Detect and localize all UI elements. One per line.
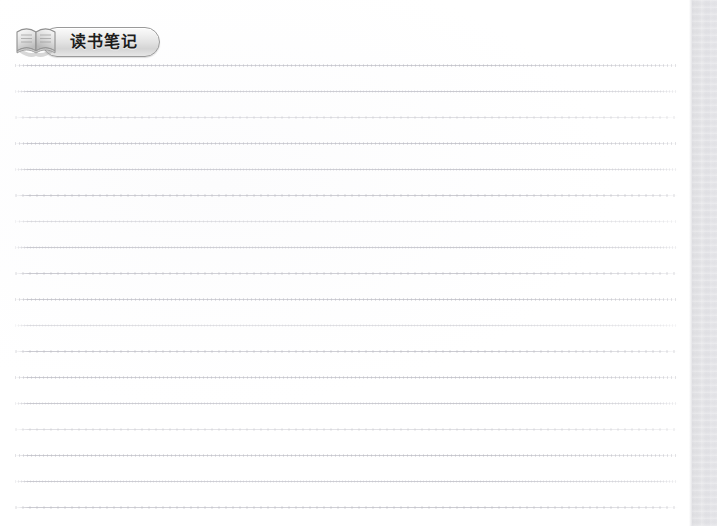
ruled-line: [15, 116, 678, 119]
ruled-line-grain: [15, 90, 678, 93]
ruled-line: [15, 64, 678, 67]
ruled-line: [15, 246, 678, 249]
ruled-line: [15, 142, 678, 145]
notebook-page: 读书笔记: [0, 0, 717, 526]
ruled-line-stroke: [15, 65, 678, 66]
ruled-line: [15, 480, 678, 483]
ruled-line-stroke: [15, 221, 678, 222]
ruled-line: [15, 220, 678, 223]
page-gutter-shadow: [692, 0, 717, 526]
ruled-line-grain: [15, 142, 678, 145]
ruled-line-stroke: [15, 377, 678, 378]
section-title: 读书笔记: [70, 31, 160, 53]
ruled-line-stroke: [15, 481, 678, 482]
ruled-line-stroke: [15, 91, 678, 92]
ruled-line-grain: [15, 454, 678, 457]
ruled-lines-group: [0, 0, 717, 526]
ruled-line-grain: [15, 376, 678, 379]
ruled-line-stroke: [15, 117, 678, 118]
ruled-line-stroke: [15, 325, 678, 326]
ruled-line-stroke: [15, 247, 678, 248]
ruled-line-grain: [15, 402, 678, 405]
ruled-line-grain: [15, 298, 678, 301]
ruled-line-stroke: [15, 273, 678, 274]
ruled-line-grain: [15, 324, 678, 327]
ruled-line-stroke: [15, 195, 678, 196]
ruled-line-grain: [15, 168, 678, 171]
ruled-line: [15, 376, 678, 379]
paper-texture: [0, 0, 717, 526]
ruled-line: [15, 168, 678, 171]
ruled-line-grain: [15, 480, 678, 483]
ruled-line: [15, 402, 678, 405]
ruled-line: [15, 350, 678, 353]
ruled-line-stroke: [15, 299, 678, 300]
ruled-line-grain: [15, 246, 678, 249]
section-header: 读书笔记: [12, 22, 332, 64]
ruled-line-grain: [15, 428, 678, 431]
ruled-line: [15, 298, 678, 301]
ruled-line: [15, 90, 678, 93]
ruled-line-stroke: [15, 143, 678, 144]
ruled-line-grain: [15, 272, 678, 275]
ruled-line-stroke: [15, 351, 678, 352]
ruled-line: [15, 272, 678, 275]
ruled-line-grain: [15, 194, 678, 197]
ruled-line: [15, 324, 678, 327]
ruled-line-stroke: [15, 429, 678, 430]
ruled-line-stroke: [15, 507, 678, 508]
ruled-line: [15, 454, 678, 457]
ruled-line-stroke: [15, 403, 678, 404]
ruled-line: [15, 506, 678, 509]
ruled-line-grain: [15, 350, 678, 353]
ruled-line-grain: [15, 220, 678, 223]
ruled-line: [15, 194, 678, 197]
ruled-line-grain: [15, 116, 678, 119]
ruled-line-stroke: [15, 455, 678, 456]
ruled-line: [15, 428, 678, 431]
ruled-line-grain: [15, 64, 678, 67]
open-book-icon: [12, 22, 60, 62]
ruled-line-grain: [15, 506, 678, 509]
ruled-line-stroke: [15, 169, 678, 170]
